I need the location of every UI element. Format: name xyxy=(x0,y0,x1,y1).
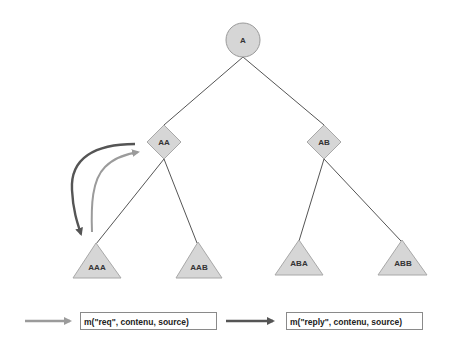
node-aab-label: AAB xyxy=(190,263,208,272)
node-aba[interactable]: ABA xyxy=(275,240,323,275)
node-a[interactable]: A xyxy=(226,23,260,57)
legend-reply-label: m("reply", contenu, source) xyxy=(290,317,402,327)
edge-a-ab xyxy=(243,57,324,125)
edge-a-aa xyxy=(164,57,243,125)
edge-ab-aba xyxy=(299,159,324,241)
legend-request-label: m("req", contenu, source) xyxy=(84,317,189,327)
node-abb-label: ABB xyxy=(394,259,412,268)
reply-curved-arrow xyxy=(72,144,135,234)
node-aa-label: AA xyxy=(158,138,170,147)
node-aaa-label: AAA xyxy=(88,263,106,272)
node-aa[interactable]: AA xyxy=(147,125,181,159)
edge-ab-abb xyxy=(324,159,401,241)
node-aaa[interactable]: AAA xyxy=(73,243,121,278)
legend-reply-box: m("reply", contenu, source) xyxy=(286,312,423,330)
legend-request-box: m("req", contenu, source) xyxy=(80,312,217,330)
node-a-label: A xyxy=(240,36,246,45)
node-ab[interactable]: AB xyxy=(307,125,341,159)
node-abb[interactable]: ABB xyxy=(378,240,427,275)
edge-aa-aaa xyxy=(96,159,164,244)
node-ab-label: AB xyxy=(318,138,330,147)
tree-diagram: A AA AB AAA AAB ABA ABB xyxy=(0,0,452,349)
tree-edges xyxy=(96,57,401,244)
node-aab[interactable]: AAB xyxy=(176,242,222,278)
edge-aa-aab xyxy=(164,159,197,243)
node-aba-label: ABA xyxy=(290,259,308,268)
